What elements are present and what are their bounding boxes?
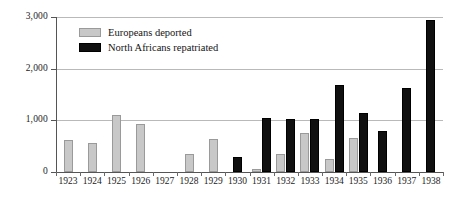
y-tick-label: 3,000: [26, 11, 48, 21]
x-tick-label: 1936: [370, 176, 394, 186]
x-tick-label: 1930: [225, 176, 249, 186]
x-tick-label: 1925: [104, 176, 128, 186]
x-tick-label: 1929: [201, 176, 225, 186]
bar: [378, 131, 387, 172]
bar: [300, 133, 309, 172]
bar: [426, 20, 435, 172]
bar: [402, 88, 411, 172]
legend-label-north-africans: North Africans repatriated: [108, 42, 218, 53]
x-tick-label: 1928: [177, 176, 201, 186]
x-tick-label: 1937: [395, 176, 419, 186]
x-tick-label: 1931: [250, 176, 274, 186]
y-tick-label: 1,000: [26, 114, 48, 124]
legend-swatch-icon-north-africans: [79, 43, 101, 52]
bar: [262, 118, 271, 172]
bar: [88, 143, 97, 172]
y-tick-mark: [51, 17, 56, 18]
bar: [335, 85, 344, 172]
y-tick-mark: [51, 120, 56, 121]
y-tick-label: 0: [43, 166, 48, 176]
y-axis-labels: 01,0002,0003,000: [0, 0, 48, 206]
x-tick-label: 1938: [419, 176, 443, 186]
bar-chart: 01,0002,0003,000 19231924192519261927192…: [0, 0, 465, 206]
x-tick-label: 1924: [80, 176, 104, 186]
x-tick-label: 1923: [56, 176, 80, 186]
bar: [310, 119, 319, 172]
y-tick-label: 2,000: [26, 63, 48, 73]
legend-swatch-icon-europeans: [79, 28, 101, 37]
x-tick-label: 1927: [153, 176, 177, 186]
x-tick-label: 1932: [274, 176, 298, 186]
chart-legend: Europeans deported North Africans repatr…: [79, 26, 218, 56]
bar: [112, 115, 121, 172]
legend-item-north-africans-repatriated: North Africans repatriated: [79, 41, 218, 54]
y-tick-mark: [51, 172, 56, 173]
bar: [286, 119, 295, 172]
x-tick-label: 1933: [298, 176, 322, 186]
x-axis-labels: 1923192419251926192719281929193019311932…: [56, 176, 444, 196]
x-tick-label: 1935: [346, 176, 370, 186]
legend-item-europeans-deported: Europeans deported: [79, 26, 218, 39]
bar: [136, 124, 145, 172]
legend-label-europeans: Europeans deported: [108, 27, 192, 38]
bar: [64, 140, 73, 172]
x-tick-label: 1934: [322, 176, 346, 186]
bar: [359, 113, 368, 172]
x-tick-label: 1926: [129, 176, 153, 186]
bar: [209, 139, 218, 172]
y-tick-mark: [51, 69, 56, 70]
bar: [325, 159, 334, 172]
bar: [185, 154, 194, 172]
bar: [233, 157, 242, 172]
bar: [349, 138, 358, 172]
bar: [276, 154, 285, 172]
